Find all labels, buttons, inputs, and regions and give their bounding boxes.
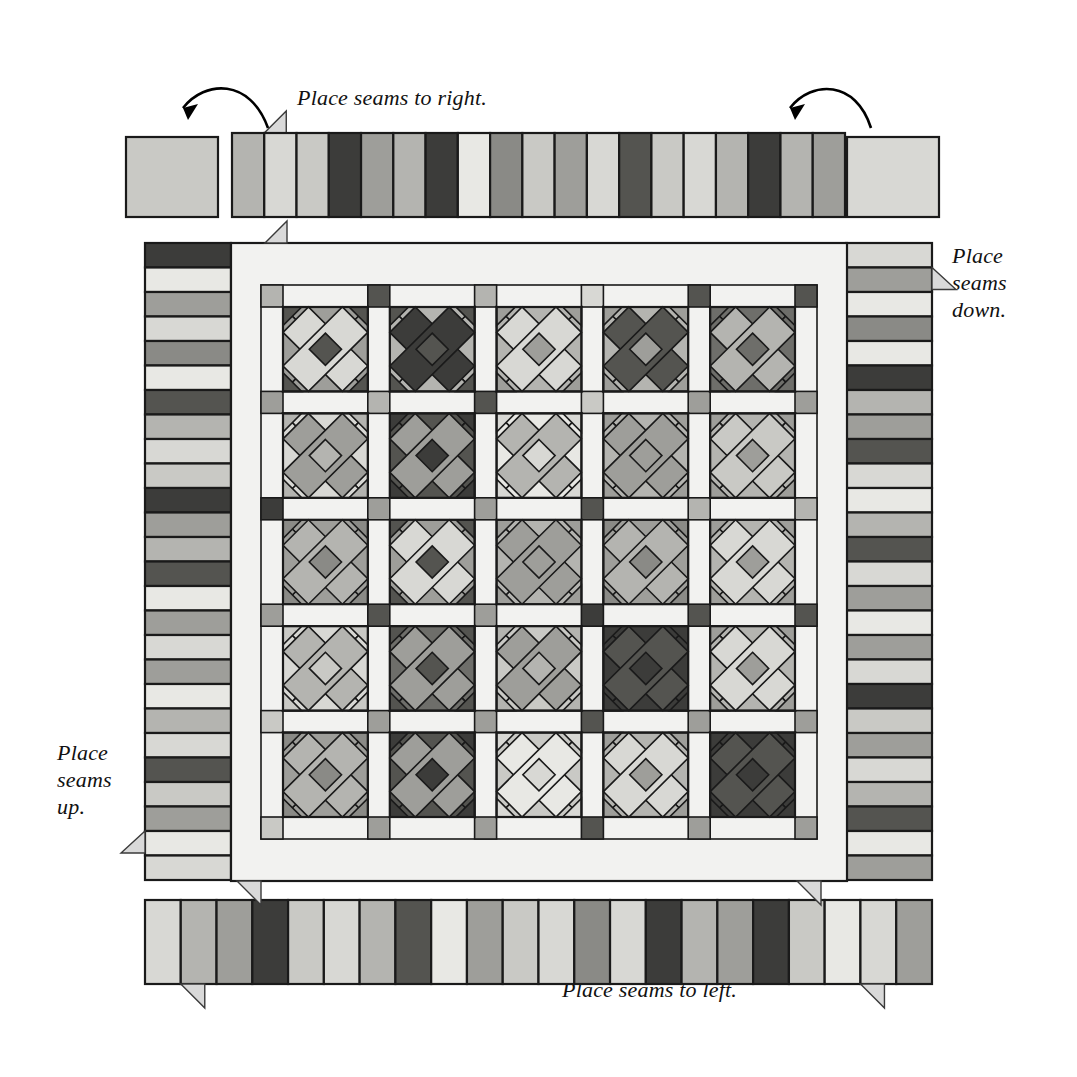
rotate-left-arrow (183, 88, 268, 128)
sashing-cornerstone (368, 711, 390, 733)
bottom-border-segment (467, 900, 503, 984)
right-border-segment (846, 439, 932, 464)
sashing-cornerstone (475, 711, 497, 733)
quilt-block (283, 626, 368, 710)
top-border-segment (555, 133, 587, 217)
sashing-cornerstone (688, 391, 710, 413)
top-border-segment (426, 133, 458, 217)
sashing-cornerstone (261, 391, 283, 413)
quilt-block (710, 626, 795, 710)
quilt-block (710, 733, 795, 817)
right-border-segment (846, 341, 932, 366)
left-border-segment (145, 366, 231, 391)
bottom-border-segment (860, 900, 896, 984)
bottom-border-segment (217, 900, 253, 984)
left-border-segment (145, 488, 231, 513)
right-border-segment (846, 268, 932, 293)
sashing-cornerstone (688, 711, 710, 733)
quilt-block (497, 733, 582, 817)
sashing-cornerstone (475, 285, 497, 307)
top-left-corner-square (126, 137, 218, 217)
top-border-segment (361, 133, 393, 217)
right-border-segment (846, 782, 932, 807)
sashing-cornerstone (795, 711, 817, 733)
sashing-cornerstone (795, 391, 817, 413)
right-border-segment (846, 317, 932, 342)
top-border-segment (651, 133, 683, 217)
left-border-segment (145, 831, 231, 856)
sashing-cornerstone (261, 285, 283, 307)
bottom-border-segment (825, 900, 861, 984)
quilt-block (390, 413, 475, 497)
left-border-segment (145, 317, 231, 342)
right-border-segment (846, 415, 932, 440)
top-border-segment (716, 133, 748, 217)
sashing-cornerstone (368, 604, 390, 626)
left-border-segment (145, 758, 231, 783)
quilt-block (603, 626, 688, 710)
top-border-segment (264, 133, 296, 217)
sashing-cornerstone (688, 498, 710, 520)
left-border-segment (145, 341, 231, 366)
top-border-segment (458, 133, 490, 217)
left-border-segment (145, 660, 231, 685)
quilt-block (497, 520, 582, 604)
top-border-segment (587, 133, 619, 217)
seam-tab (860, 984, 884, 1008)
bottom-border-segment (610, 900, 646, 984)
left-border-segment (145, 807, 231, 832)
right-border-segment (846, 562, 932, 587)
right-border-segment (846, 733, 932, 758)
sashing-cornerstone (688, 285, 710, 307)
top-border-segment (490, 133, 522, 217)
right-border-segment (846, 758, 932, 783)
quilt-block (603, 413, 688, 497)
right-border-segment (846, 635, 932, 660)
right-border-segment (846, 366, 932, 391)
top-border-segment (329, 133, 361, 217)
sashing-cornerstone (581, 604, 603, 626)
right-border-segment (846, 464, 932, 489)
top-border-segment (780, 133, 812, 217)
sashing-cornerstone (581, 498, 603, 520)
quilt-assembly-diagram: Place seams to right. Place seams down. … (0, 0, 1077, 1077)
bottom-border-segment (753, 900, 789, 984)
top-border-segment (748, 133, 780, 217)
sashing-cornerstone (261, 817, 283, 839)
left-border-segment (145, 684, 231, 709)
sashing-cornerstone (795, 285, 817, 307)
left-border-segment (145, 537, 231, 562)
left-border-segment (145, 635, 231, 660)
left-border-segment (145, 611, 231, 636)
bottom-border-segment (789, 900, 825, 984)
bottom-border-segment (539, 900, 575, 984)
bottom-border-segment (181, 900, 217, 984)
left-border-segment (145, 733, 231, 758)
left-border-segment (145, 586, 231, 611)
seam-tab (932, 268, 956, 290)
top-border-segment (393, 133, 425, 217)
right-border-segment (846, 586, 932, 611)
right-border-segment (846, 831, 932, 856)
sashing-cornerstone (261, 498, 283, 520)
right-border-segment (846, 709, 932, 734)
sashing-cornerstone (368, 391, 390, 413)
right-border-segment (846, 660, 932, 685)
top-border-segment (813, 133, 845, 217)
sashing-cornerstone (688, 604, 710, 626)
seam-tab (264, 111, 286, 133)
sashing-cornerstone (795, 498, 817, 520)
sashing-cornerstone (688, 817, 710, 839)
seam-tab (265, 221, 287, 243)
quilt-block (283, 520, 368, 604)
top-border-segment (232, 133, 264, 217)
quilt-block (497, 307, 582, 391)
seam-tab (121, 831, 145, 853)
right-border-segment (846, 513, 932, 538)
left-border-segment (145, 562, 231, 587)
left-border-segment (145, 464, 231, 489)
right-border-segment (846, 807, 932, 832)
bottom-border-segment (360, 900, 396, 984)
bottom-border-segment (431, 900, 467, 984)
right-border-segment (846, 537, 932, 562)
